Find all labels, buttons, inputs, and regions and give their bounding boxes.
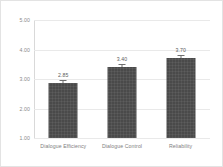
bar[interactable]	[166, 58, 195, 138]
bar[interactable]	[49, 83, 78, 138]
y-axis-tick-label: 1.00	[20, 135, 31, 141]
x-axis-tick-label: Reliability	[169, 143, 192, 149]
bar-group: 2.85	[34, 20, 93, 138]
y-axis-tick-label: 2.00	[20, 106, 31, 112]
bar-group: 3.40	[93, 20, 152, 138]
bar-chart-card: 1.002.003.004.005.00 2.853.403.70 Dialog…	[0, 0, 223, 167]
bar[interactable]	[107, 67, 136, 138]
y-axis-tick-label: 4.00	[20, 47, 31, 53]
x-axis-tick-label: Dialogue Control	[102, 143, 142, 149]
bar-value-label: 3.70	[175, 47, 186, 53]
bar-value-label: 2.85	[58, 72, 69, 78]
gridline	[34, 138, 210, 139]
error-bar-cap	[60, 80, 67, 81]
error-bar-cap	[118, 64, 125, 65]
plot-area: 1.002.003.004.005.00 2.853.403.70	[34, 20, 210, 138]
bar-value-label: 3.40	[117, 56, 128, 62]
bar-group: 3.70	[151, 20, 210, 138]
error-bar-cap	[177, 55, 184, 56]
y-axis-tick-label: 3.00	[20, 76, 31, 82]
y-axis-tick-label: 5.00	[20, 17, 31, 23]
x-axis-tick-label: Dialogue Efficiency	[40, 143, 86, 149]
